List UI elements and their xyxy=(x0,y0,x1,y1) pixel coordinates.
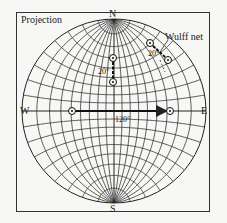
north-label: N xyxy=(109,9,116,19)
west-label: W xyxy=(20,106,29,116)
angle-label-rim: 20° xyxy=(148,50,159,58)
angle-label-vertical: 20° xyxy=(98,68,109,76)
figure-title: Projection xyxy=(21,15,62,25)
wulff-net-label: Wulff net xyxy=(165,32,203,42)
wulff-net-figure: Projection N S W E Wulff net 20° 20° 120… xyxy=(0,0,227,223)
angle-label-horizontal: 120° xyxy=(115,116,130,124)
east-label: E xyxy=(201,106,207,116)
south-label: S xyxy=(110,204,116,214)
